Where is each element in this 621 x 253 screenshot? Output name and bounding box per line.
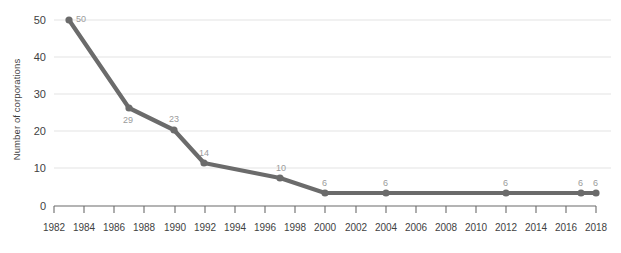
data-point-label: 6 — [383, 179, 388, 188]
data-point-marker — [65, 16, 72, 23]
data-point-marker — [200, 159, 207, 166]
data-point-marker — [592, 189, 599, 196]
data-point-marker — [502, 189, 509, 196]
data-series-line — [69, 20, 596, 193]
data-point-marker — [170, 126, 177, 133]
data-point-marker — [382, 189, 389, 196]
data-point-label: 14 — [199, 149, 209, 158]
x-axis-ticks — [54, 206, 596, 213]
data-point-label: 29 — [123, 116, 133, 125]
gridlines — [54, 20, 611, 168]
data-point-marker — [125, 104, 132, 111]
data-point-label: 50 — [76, 15, 86, 24]
data-point-label: 6 — [593, 179, 598, 188]
data-point-marker — [321, 189, 328, 196]
data-point-label: 6 — [322, 179, 327, 188]
data-point-marker — [577, 189, 584, 196]
data-point-markers — [65, 16, 599, 196]
data-point-marker — [276, 174, 283, 181]
data-point-label: 10 — [276, 164, 286, 173]
chart-canvas — [0, 0, 621, 253]
x-tick-label-2018: 2018 — [576, 223, 616, 233]
line-chart: Number of corporations 50 40 30 20 10 0 — [0, 0, 621, 253]
data-point-label: 23 — [169, 115, 179, 124]
data-point-label: 6 — [503, 179, 508, 188]
data-point-label: 6 — [578, 179, 583, 188]
